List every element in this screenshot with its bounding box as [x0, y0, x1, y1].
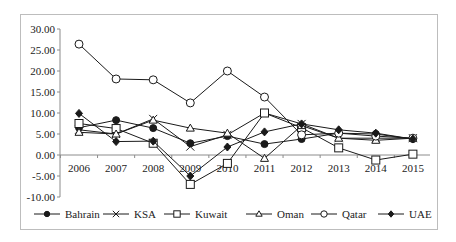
legend-label: Qatar [342, 208, 367, 220]
y-tick-label: 20.00 [30, 65, 55, 77]
legend-item-ksa: KSA [103, 208, 156, 220]
series-kuwait [75, 109, 417, 188]
y-tick-label: -5.00 [32, 170, 55, 182]
filled-diamond-marker [388, 211, 393, 217]
y-axis: 30.0025.0020.0015.0010.005.000.00-5.00-1… [27, 23, 60, 203]
legend-item-bahrain: Bahrain [34, 208, 100, 220]
y-tick-label: 5.00 [36, 128, 56, 140]
filled-circle-marker [113, 117, 120, 124]
legend: BahrainKSAKuwaitOmanQatarUAE [34, 208, 432, 220]
y-tick-label: 15.00 [30, 86, 55, 98]
open-square-marker [174, 211, 180, 217]
y-tick-label: 30.00 [30, 23, 55, 35]
legend-label: Bahrain [65, 208, 100, 220]
legend-label: KSA [134, 208, 156, 220]
filled-diamond-marker [261, 128, 268, 136]
x-tick-label: 2011 [254, 162, 276, 174]
open-square-marker [372, 156, 380, 164]
open-circle-marker [321, 211, 327, 217]
y-tick-label: -10.00 [27, 191, 56, 203]
filled-diamond-marker [224, 143, 231, 151]
legend-label: Oman [277, 208, 304, 220]
open-circle-marker [298, 131, 306, 139]
x-tick-label: 2006 [68, 162, 91, 174]
x-tick-label: 2008 [142, 162, 165, 174]
open-circle-marker [149, 76, 157, 84]
y-tick-label: 25.00 [30, 44, 55, 56]
open-circle-marker [261, 93, 269, 101]
filled-circle-marker [261, 141, 268, 148]
open-square-marker [186, 180, 194, 188]
x-tick-label: 2012 [291, 162, 313, 174]
y-tick-label: 10.00 [30, 107, 55, 119]
x-tick-label: 2007 [105, 162, 128, 174]
legend-label: Kuwait [195, 208, 227, 220]
open-square-marker [261, 109, 269, 117]
legend-item-kuwait: Kuwait [164, 208, 227, 220]
x-tick-label: 2013 [328, 162, 351, 174]
legend-item-qatar: Qatar [311, 208, 367, 220]
legend-label: UAE [409, 208, 432, 220]
filled-diamond-marker [76, 109, 83, 117]
x-tick-label: 2015 [402, 162, 425, 174]
filled-circle-marker [150, 125, 157, 132]
open-circle-marker [223, 67, 231, 75]
series-qatar [75, 40, 417, 142]
open-square-marker [335, 144, 343, 152]
legend-item-uae: UAE [378, 208, 432, 220]
open-circle-marker [112, 75, 120, 83]
open-square-marker [75, 120, 83, 128]
line-chart: 30.0025.0020.0015.0010.005.000.00-5.00-1… [0, 0, 456, 242]
open-square-marker [223, 159, 231, 167]
open-circle-marker [186, 99, 194, 107]
filled-circle-marker [44, 211, 49, 216]
filled-diamond-marker [113, 138, 120, 146]
y-tick-label: 0.00 [36, 149, 56, 161]
open-circle-marker [75, 40, 83, 48]
legend-item-oman: Oman [246, 208, 304, 220]
open-square-marker [409, 150, 417, 158]
